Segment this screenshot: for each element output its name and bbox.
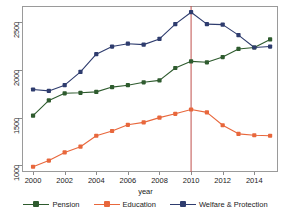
x-tick-label: 2010 xyxy=(183,176,200,185)
y-tick-label: 2000 xyxy=(13,70,22,86)
legend-label: Pension xyxy=(52,200,79,209)
y-tick-label: 2500 xyxy=(13,22,22,38)
x-tick-mark xyxy=(65,172,66,175)
x-axis: 20002002200420062008201020122014 xyxy=(0,172,291,188)
x-tick-mark xyxy=(223,172,224,175)
x-tick-mark xyxy=(96,172,97,175)
legend-item-welfare-protection[interactable]: Welfare & Protection xyxy=(170,200,268,209)
legend-key-icon xyxy=(170,200,196,208)
x-tick-mark xyxy=(33,172,34,175)
x-axis-title: year xyxy=(0,187,291,196)
x-tick-mark xyxy=(254,172,255,175)
legend-item-education[interactable]: Education xyxy=(94,200,156,209)
x-tick-mark xyxy=(159,172,160,175)
x-tick-label: 2000 xyxy=(25,176,42,185)
x-tick-label: 2004 xyxy=(88,176,105,185)
plot-area xyxy=(22,6,278,172)
legend-marker xyxy=(33,201,39,207)
x-tick-label: 2014 xyxy=(246,176,263,185)
x-tick-label: 2006 xyxy=(120,176,137,185)
x-tick-label: 2008 xyxy=(151,176,168,185)
x-tick-label: 2012 xyxy=(214,176,231,185)
legend-marker xyxy=(180,201,186,207)
legend-marker xyxy=(104,201,110,207)
x-tick-label: 2002 xyxy=(56,176,73,185)
legend-label: Welfare & Protection xyxy=(199,200,268,209)
legend-key-icon xyxy=(23,200,49,208)
x-tick-mark xyxy=(191,172,192,175)
legend: PensionEducationWelfare & Protection xyxy=(0,197,291,211)
y-tick-label: 1500 xyxy=(13,118,22,134)
legend-label: Education xyxy=(123,200,156,209)
chart-container: 1000150020002500 20002002200420062008201… xyxy=(0,0,291,215)
x-tick-mark xyxy=(128,172,129,175)
legend-key-icon xyxy=(94,200,120,208)
legend-item-pension[interactable]: Pension xyxy=(23,200,79,209)
